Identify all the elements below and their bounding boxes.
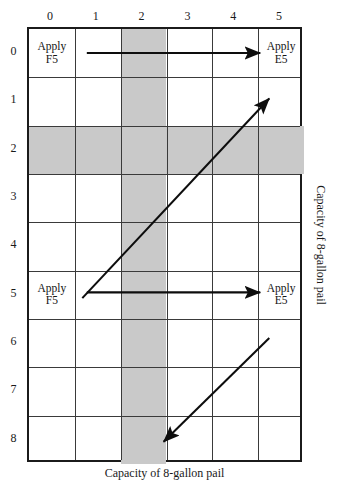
y-axis-tick-label: 6 [2, 317, 25, 365]
diagram-figure: · · 012345 012345678 Apply F5Apply E5App… [0, 0, 338, 490]
arrow-overlay [29, 29, 300, 460]
diagonal-arrow-up-right [82, 98, 269, 298]
y-axis-tick-label: 0 [2, 27, 25, 75]
x-axis-tick-labels: 012345 [27, 8, 302, 26]
x-axis-tick-label: 0 [27, 8, 73, 24]
arrow-group [82, 53, 269, 442]
y-axis-tick-label: 4 [2, 220, 25, 268]
y-axis-tick-label: 2 [2, 124, 25, 172]
y-axis-tick-label: 7 [2, 365, 25, 413]
y-axis-tick-label: 8 [2, 414, 25, 462]
y-axis-tick-label: 5 [2, 269, 25, 317]
diagonal-arrow-down-left [164, 338, 270, 442]
cropped-text-artifact: · · [0, 0, 338, 7]
cropped-text-artifact-label: · · [0, 0, 10, 3]
x-axis-tick-label: 2 [119, 8, 165, 24]
y-axis-label: Capacity of 8-gallon pail [303, 27, 336, 462]
x-axis-tick-label: 5 [256, 8, 302, 24]
x-axis-tick-label: 4 [210, 8, 256, 24]
x-axis-label: Capacity of 8-gallon pail [27, 466, 302, 481]
x-axis-tick-label: 1 [73, 8, 119, 24]
y-axis-tick-label: 1 [2, 75, 25, 123]
grid-plot-area: Apply F5Apply E5Apply F5Apply E5 [27, 27, 302, 462]
y-axis-label-text: Capacity of 8-gallon pail [312, 185, 327, 305]
y-axis-tick-labels: 012345678 [2, 27, 25, 462]
x-axis-tick-label: 3 [165, 8, 211, 24]
y-axis-tick-label: 3 [2, 172, 25, 220]
